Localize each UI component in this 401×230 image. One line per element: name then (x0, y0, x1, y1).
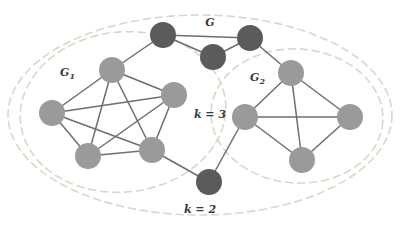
node-a2[interactable] (99, 57, 125, 83)
label-graph-g: G (205, 16, 214, 29)
node-a4[interactable] (75, 143, 101, 169)
node-a5[interactable] (139, 137, 165, 163)
node-c2[interactable] (232, 104, 258, 130)
label-subgraph-g2: G2 (250, 71, 265, 86)
diagram-canvas: Gk = 3k = 2G1G2 (0, 0, 401, 230)
node-a1[interactable] (39, 100, 65, 126)
node-b4[interactable] (196, 169, 222, 195)
label-subgraph-g1: G1 (60, 66, 75, 81)
graph-hierarchy-figure: Gk = 3k = 2G1G2 (0, 0, 401, 230)
node-b1[interactable] (150, 22, 176, 48)
edge-a2-a4 (88, 70, 112, 156)
edge-b1-b2 (163, 35, 250, 38)
node-c3[interactable] (337, 104, 363, 130)
node-a3[interactable] (161, 82, 187, 108)
label-k-three: k = 3 (194, 108, 226, 121)
label-k-two: k = 2 (184, 203, 216, 216)
node-c4[interactable] (289, 147, 315, 173)
node-b2[interactable] (237, 25, 263, 51)
node-c1[interactable] (278, 60, 304, 86)
edge-a1-a3 (52, 95, 174, 113)
node-b3[interactable] (200, 44, 226, 70)
